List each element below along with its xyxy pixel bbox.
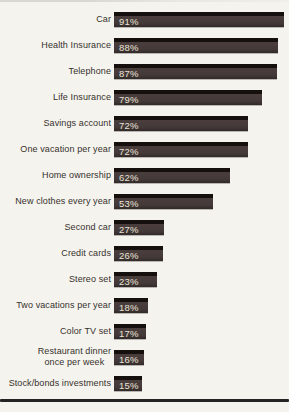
page-top-edge: [0, 0, 289, 2]
chart-row: Color TV set17%: [0, 318, 289, 344]
value-label: 23%: [114, 276, 139, 287]
chart-row: Restaurant dinner once per week16%: [0, 344, 289, 370]
category-label: Second car: [0, 222, 111, 233]
category-label: Two vacations per year: [0, 300, 111, 311]
category-label: Credit cards: [0, 248, 111, 259]
value-bar: 16%: [114, 350, 144, 365]
value-label: 79%: [114, 94, 139, 105]
chart-row: One vacation per year72%: [0, 136, 289, 162]
chart-rows: Car91%Health Insurance88%Telephone87%Lif…: [0, 6, 289, 396]
bottom-rule: [0, 399, 289, 402]
value-label: 27%: [114, 224, 139, 235]
value-bar: 88%: [114, 38, 278, 53]
value-bar: 62%: [114, 168, 230, 183]
value-label: 15%: [114, 380, 139, 391]
value-label: 87%: [114, 68, 139, 79]
value-label: 17%: [114, 328, 139, 339]
value-bar: 18%: [114, 298, 148, 313]
value-bar: 17%: [114, 324, 146, 339]
chart-row: Stock/bonds investments15%: [0, 370, 289, 396]
value-bar: 26%: [114, 246, 163, 261]
value-bar: 87%: [114, 64, 277, 79]
value-label: 91%: [114, 16, 139, 27]
chart-row: Life Insurance79%: [0, 84, 289, 110]
category-label: Restaurant dinner once per week: [0, 346, 111, 367]
value-label: 72%: [114, 146, 139, 157]
value-bar: 53%: [114, 194, 213, 209]
value-bar: 91%: [114, 12, 284, 27]
category-label: Home ownership: [0, 170, 111, 181]
category-label: Telephone: [0, 66, 111, 77]
value-bar: 15%: [114, 376, 142, 391]
category-label: Stereo set: [0, 274, 111, 285]
chart-row: Telephone87%: [0, 58, 289, 84]
chart-row: New clothes every year53%: [0, 188, 289, 214]
value-label: 18%: [114, 302, 139, 313]
category-label: One vacation per year: [0, 144, 111, 155]
chart-row: Health Insurance88%: [0, 32, 289, 58]
value-bar: 72%: [114, 142, 248, 157]
chart-row: Savings account72%: [0, 110, 289, 136]
chart: Car91%Health Insurance88%Telephone87%Lif…: [0, 0, 289, 412]
value-bar: 23%: [114, 272, 157, 287]
category-label: Stock/bonds investments: [0, 378, 111, 389]
value-label: 16%: [114, 354, 139, 365]
chart-row: Stereo set23%: [0, 266, 289, 292]
value-label: 72%: [114, 120, 139, 131]
value-label: 53%: [114, 198, 139, 209]
chart-row: Home ownership62%: [0, 162, 289, 188]
value-bar: 27%: [114, 220, 164, 235]
category-label: Health Insurance: [0, 40, 111, 51]
value-label: 88%: [114, 42, 139, 53]
category-label: Life Insurance: [0, 92, 111, 103]
value-label: 62%: [114, 172, 139, 183]
chart-row: Car91%: [0, 6, 289, 32]
chart-row: Two vacations per year18%: [0, 292, 289, 318]
chart-row: Second car27%: [0, 214, 289, 240]
category-label: Car: [0, 14, 111, 25]
category-label: Color TV set: [0, 326, 111, 337]
category-label: Savings account: [0, 118, 111, 129]
value-bar: 72%: [114, 116, 248, 131]
value-bar: 79%: [114, 90, 262, 105]
chart-row: Credit cards26%: [0, 240, 289, 266]
category-label: New clothes every year: [0, 196, 111, 207]
value-label: 26%: [114, 250, 139, 261]
